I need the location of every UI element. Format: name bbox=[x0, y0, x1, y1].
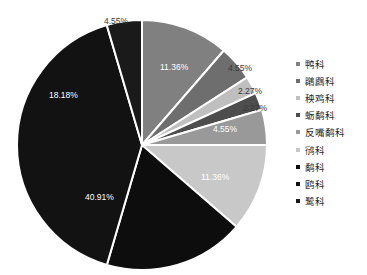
legend: 鸭科鸊鷉科秧鸡科蛎鹬科反嘴鹬科鸻科鹬科鸥科鹭科 bbox=[296, 55, 367, 210]
legend-item-label: 鹭科 bbox=[305, 194, 325, 208]
slice-value-label-yu: 18.18% bbox=[49, 90, 78, 100]
legend-swatch-icon bbox=[296, 79, 300, 83]
slice-value-label-yangji: 2.27% bbox=[238, 86, 262, 96]
legend-swatch-icon bbox=[296, 165, 300, 169]
legend-item[interactable]: 反嘴鹬科 bbox=[296, 124, 367, 141]
legend-swatch-icon bbox=[296, 113, 300, 117]
legend-item-label: 鸊鷉科 bbox=[305, 74, 335, 88]
legend-item[interactable]: 鸥科 bbox=[296, 175, 367, 192]
legend-item-label: 鸻科 bbox=[305, 143, 325, 157]
legend-item[interactable]: 鸭科 bbox=[296, 55, 367, 72]
pie-chart: 11.36% 4.55% 2.27% 2.27% 4.55% 11.36% 18… bbox=[0, 0, 290, 275]
legend-swatch-icon bbox=[296, 148, 300, 152]
slice-value-label-ou: 40.91% bbox=[85, 192, 114, 202]
slice-value-label-fanzuiyu: 4.55% bbox=[213, 124, 237, 134]
legend-swatch-icon bbox=[296, 182, 300, 186]
legend-swatch-icon bbox=[296, 96, 300, 100]
legend-item-label: 鸥科 bbox=[305, 177, 325, 191]
slice-value-label-liyu: 2.27% bbox=[243, 103, 267, 113]
legend-swatch-icon bbox=[296, 199, 300, 203]
legend-item[interactable]: 秧鸡科 bbox=[296, 89, 367, 106]
pie-plot-area bbox=[17, 20, 267, 270]
slice-value-label-piti: 4.55% bbox=[228, 63, 252, 73]
legend-swatch-icon bbox=[296, 130, 300, 134]
legend-item-label: 鹬科 bbox=[305, 160, 325, 174]
legend-item-label: 蛎鹬科 bbox=[305, 108, 335, 122]
legend-item[interactable]: 鹭科 bbox=[296, 193, 367, 210]
legend-swatch-icon bbox=[296, 62, 300, 66]
slice-value-label-lu: 4.55% bbox=[104, 16, 128, 26]
slice-value-label-heng: 11.36% bbox=[201, 172, 229, 182]
legend-item[interactable]: 蛎鹬科 bbox=[296, 107, 367, 124]
legend-item[interactable]: 鸊鷉科 bbox=[296, 72, 367, 89]
legend-item[interactable]: 鹬科 bbox=[296, 158, 367, 175]
legend-item-label: 鸭科 bbox=[305, 57, 325, 71]
slice-value-label-ya: 11.36% bbox=[160, 62, 188, 72]
legend-item-label: 秧鸡科 bbox=[305, 91, 335, 105]
pie-svg bbox=[17, 20, 267, 270]
legend-item-label: 反嘴鹬科 bbox=[305, 125, 345, 139]
legend-item[interactable]: 鸻科 bbox=[296, 141, 367, 158]
